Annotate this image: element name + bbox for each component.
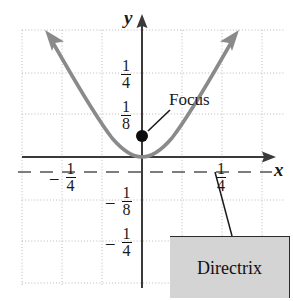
- x-axis-label: x: [274, 160, 284, 179]
- minus-sign: –: [106, 234, 115, 251]
- minus-sign: –: [50, 169, 59, 186]
- y-tick-quarter-numerator: 1: [120, 58, 132, 74]
- y-tick-negative-eighth-numerator: 1: [121, 185, 133, 201]
- y-axis-label: y: [124, 8, 132, 27]
- y-tick-label-eighth: 1 8: [120, 99, 132, 133]
- x-tick-quarter-denominator: 4: [215, 178, 227, 194]
- x-tick-label-negative-quarter: – 1 4: [50, 161, 77, 195]
- directrix-annotation-label: Directrix: [170, 257, 289, 278]
- y-tick-negative-eighth-denominator: 8: [121, 202, 133, 218]
- y-tick-label-quarter: 1 4: [120, 58, 132, 92]
- focus-leader-line: [148, 110, 170, 131]
- focus-annotation-label: Focus: [169, 91, 210, 108]
- y-tick-negative-quarter-numerator: 1: [121, 226, 133, 242]
- x-tick-quarter-numerator: 1: [215, 161, 227, 177]
- y-tick-eighth-numerator: 1: [120, 99, 132, 115]
- y-tick-label-negative-eighth: – 1 8: [106, 185, 133, 219]
- x-tick-negative-quarter-denominator: 4: [65, 178, 77, 194]
- parabola-figure: y x 1 4 1 8 – 1 8 – 1 4: [0, 0, 293, 301]
- y-tick-negative-quarter-denominator: 4: [121, 243, 133, 259]
- focus-point: [136, 130, 148, 142]
- y-tick-quarter-denominator: 4: [120, 75, 132, 91]
- x-tick-negative-quarter-numerator: 1: [65, 161, 77, 177]
- y-axis-arrowhead: [137, 14, 148, 28]
- x-tick-label-quarter: 1 4: [215, 161, 227, 195]
- y-tick-eighth-denominator: 8: [120, 116, 132, 132]
- directrix-callout-box: Directrix: [170, 236, 290, 298]
- y-tick-label-negative-quarter: – 1 4: [106, 226, 133, 260]
- minus-sign: –: [106, 193, 115, 210]
